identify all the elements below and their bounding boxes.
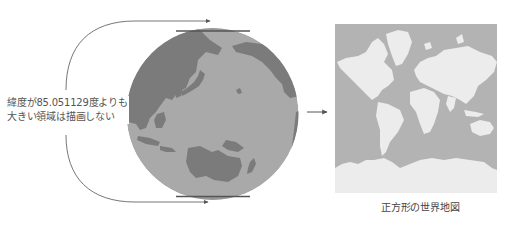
globe bbox=[120, 20, 310, 210]
globe-north-cut-band bbox=[120, 20, 310, 31]
square-world-map bbox=[335, 24, 497, 193]
annotation-line-2: 大きい領域は描画しない bbox=[7, 110, 128, 124]
map-caption: 正方形の世界地図 bbox=[381, 201, 459, 215]
annotation-label: 緯度が85.051129度よりも 大きい領域は描画しない bbox=[6, 96, 129, 124]
globe-south-cut-band bbox=[120, 196, 310, 210]
annotation-line-1: 緯度が85.051129度よりも bbox=[7, 96, 128, 110]
